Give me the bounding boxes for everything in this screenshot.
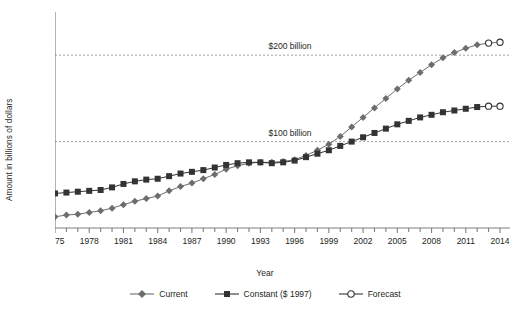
data-point-marker <box>75 189 81 195</box>
reference-label-100: $100 billion <box>268 128 311 138</box>
data-point-marker <box>200 175 207 182</box>
data-point-marker <box>97 207 104 214</box>
data-point-marker <box>55 190 58 196</box>
forecast-point-marker <box>497 103 503 109</box>
data-point-marker <box>63 212 70 219</box>
data-point-marker <box>371 130 377 136</box>
data-point-marker <box>63 190 69 196</box>
data-point-marker <box>337 143 343 149</box>
x-tick-label: 1999 <box>319 236 338 246</box>
legend-marker-square-icon <box>214 288 240 300</box>
data-point-marker <box>120 181 126 187</box>
x-tick-label: 1978 <box>80 236 99 246</box>
data-point-marker <box>428 61 435 68</box>
data-point-marker <box>474 41 481 48</box>
legend-item-forecast: Forecast <box>338 288 401 300</box>
data-point-marker <box>257 159 263 165</box>
data-point-marker <box>235 160 241 166</box>
data-point-marker <box>303 154 309 160</box>
data-point-marker <box>417 69 424 76</box>
forecast-point-marker <box>485 40 491 46</box>
data-point-marker <box>143 177 149 183</box>
x-tick-label: 1990 <box>217 236 236 246</box>
chart-legend: Current Constant ($ 1997) Forecast <box>0 288 530 300</box>
data-point-marker <box>292 158 298 164</box>
data-point-marker <box>188 180 195 187</box>
data-point-marker <box>55 213 59 220</box>
x-tick-label: 1993 <box>251 236 270 246</box>
data-point-marker <box>451 107 457 113</box>
data-point-marker <box>154 193 161 200</box>
data-point-marker <box>326 147 332 153</box>
data-point-marker <box>166 173 172 179</box>
data-point-marker <box>132 178 138 184</box>
data-point-marker <box>269 160 275 166</box>
data-point-marker <box>109 184 115 190</box>
x-axis-title: Year <box>0 268 530 278</box>
legend-item-current: Current <box>129 288 187 300</box>
data-point-marker <box>200 167 206 173</box>
x-tick-label: 2014 <box>491 236 510 246</box>
data-point-marker <box>463 106 469 112</box>
forecast-point-marker <box>485 103 491 109</box>
data-point-marker <box>314 151 320 157</box>
series-line <box>55 106 500 193</box>
data-point-marker <box>109 205 116 212</box>
chart-figure: Amount in billions of dollars $100 billi… <box>0 0 530 312</box>
x-tick-label: 1981 <box>114 236 133 246</box>
data-point-marker <box>120 201 127 208</box>
x-tick-label: 2011 <box>457 236 476 246</box>
data-point-marker <box>143 195 150 202</box>
chart-svg: $100 billion$200 billion0501001502002501… <box>55 12 513 252</box>
data-point-marker <box>349 139 355 145</box>
data-point-marker <box>280 159 286 165</box>
data-point-marker <box>131 198 138 205</box>
data-point-marker <box>406 118 412 124</box>
data-point-marker <box>223 162 229 168</box>
forecast-point-marker <box>497 39 503 45</box>
data-point-marker <box>86 188 92 194</box>
data-point-marker <box>383 126 389 132</box>
x-tick-label: 2002 <box>354 236 373 246</box>
legend-label-forecast: Forecast <box>368 289 401 299</box>
data-point-marker <box>474 104 480 110</box>
legend-marker-open-circle-icon <box>338 288 364 300</box>
x-tick-label: 1987 <box>182 236 201 246</box>
data-point-marker <box>417 114 423 120</box>
data-point-marker <box>98 187 104 193</box>
x-tick-label: 2005 <box>388 236 407 246</box>
data-point-marker <box>74 211 81 218</box>
data-point-marker <box>394 121 400 127</box>
data-point-marker <box>440 109 446 115</box>
data-point-marker <box>211 171 218 178</box>
x-tick-label: 2008 <box>422 236 441 246</box>
data-point-marker <box>246 159 252 165</box>
legend-label-constant: Constant ($ 1997) <box>244 289 312 299</box>
reference-label-200: $200 billion <box>268 41 311 51</box>
legend-marker-diamond-icon <box>129 288 155 300</box>
data-point-marker <box>178 171 184 177</box>
legend-label-current: Current <box>159 289 187 299</box>
data-point-marker <box>360 134 366 140</box>
data-point-marker <box>189 169 195 175</box>
data-point-marker <box>166 187 173 194</box>
y-axis-title: Amount in billions of dollars <box>2 80 16 220</box>
series-constant-1997- <box>55 103 503 196</box>
data-point-marker <box>429 112 435 118</box>
x-tick-label: 1996 <box>285 236 304 246</box>
legend-item-constant: Constant ($ 1997) <box>214 288 312 300</box>
data-point-marker <box>462 45 469 52</box>
data-point-marker <box>155 176 161 182</box>
data-point-marker <box>212 165 218 171</box>
plot-area: $100 billion$200 billion0501001502002501… <box>55 12 513 252</box>
x-tick-label: 1975 <box>55 236 65 246</box>
data-point-marker <box>177 183 184 190</box>
x-tick-label: 1984 <box>148 236 167 246</box>
data-point-marker <box>86 209 93 216</box>
